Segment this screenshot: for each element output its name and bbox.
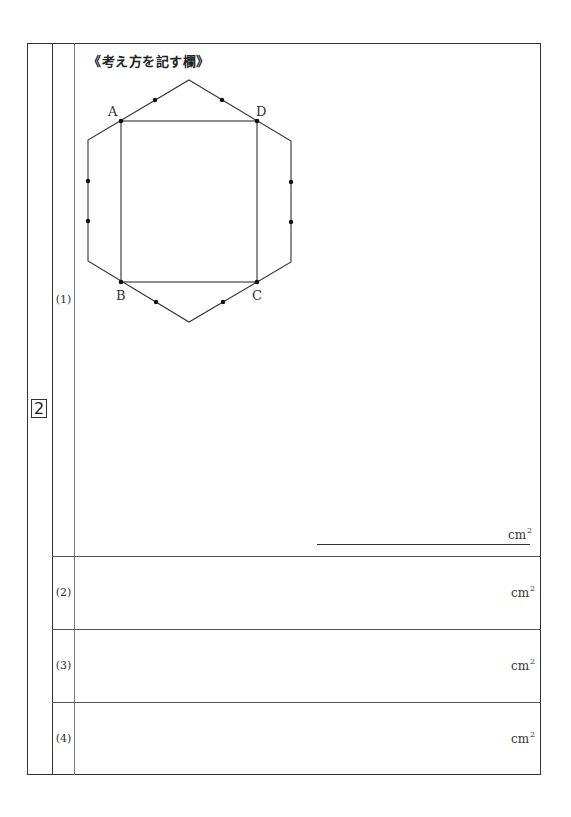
answer-line-1[interactable]: [317, 544, 530, 545]
unit-exponent: 2: [527, 526, 532, 535]
unit-text: cm: [508, 528, 526, 542]
answer-area-3[interactable]: [75, 630, 540, 701]
vertex-points: [119, 119, 260, 285]
label-a: A: [107, 104, 118, 119]
answer-area-2[interactable]: [75, 557, 540, 628]
rectangle-abcd: [121, 121, 257, 282]
label-c: C: [252, 288, 262, 303]
edge-division-dots: [86, 98, 293, 304]
label-d: D: [256, 104, 266, 119]
label-b: B: [116, 288, 126, 303]
unit-row-1: cm2: [508, 526, 532, 542]
answer-area-4[interactable]: [75, 703, 540, 774]
